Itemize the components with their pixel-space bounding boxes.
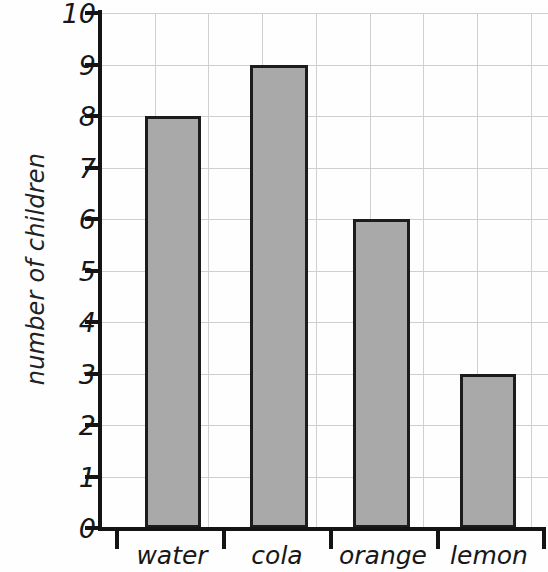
gridline-horizontal [101, 65, 548, 66]
x-tick-label-water: water [136, 541, 207, 570]
gridline-vertical [531, 13, 532, 528]
x-tick-label-lemon: lemon [450, 541, 528, 570]
gridline-vertical [208, 13, 209, 528]
y-axis-tick [85, 217, 102, 221]
y-axis-tick [85, 269, 102, 273]
y-axis-tick [85, 114, 102, 118]
y-axis-tick [85, 372, 102, 376]
x-axis-tick [436, 529, 440, 549]
bar-lemon [460, 374, 516, 529]
bar-water [145, 116, 201, 528]
plot-area [101, 13, 548, 528]
y-axis-tick [85, 320, 102, 324]
gridline-vertical [316, 13, 317, 528]
y-axis-tick [85, 63, 102, 67]
x-axis-line [98, 527, 546, 531]
x-axis-tick [115, 529, 119, 549]
gridline-vertical [423, 13, 424, 528]
bar-chart: number of children 10 9 8 7 6 5 4 3 2 1 … [0, 0, 548, 572]
y-axis-tick [85, 166, 102, 170]
x-axis-tick [329, 529, 333, 549]
x-axis-tick [222, 529, 226, 549]
y-axis-tick [85, 526, 102, 530]
bar-orange [353, 219, 410, 528]
x-tick-label-cola: cola [251, 541, 302, 570]
y-axis-tick-labels: 10 9 8 7 6 5 4 3 2 1 0 [44, 0, 96, 572]
x-axis-tick [542, 529, 546, 549]
x-tick-label-orange: orange [339, 541, 427, 570]
y-axis-tick [85, 475, 102, 479]
y-axis-tick [85, 423, 102, 427]
bar-cola [250, 65, 308, 529]
y-axis-tick [85, 11, 102, 15]
gridline-horizontal [101, 13, 548, 14]
